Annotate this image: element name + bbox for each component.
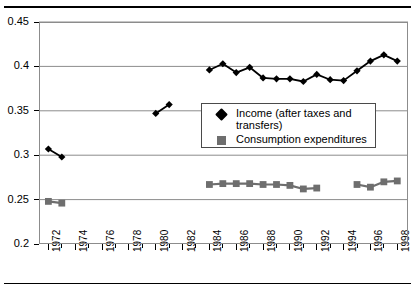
x-tick-mark bbox=[48, 244, 49, 250]
x-tick-mark bbox=[316, 244, 317, 250]
data-point-square bbox=[45, 198, 52, 205]
data-point-square bbox=[233, 180, 240, 187]
data-point-square bbox=[354, 181, 361, 188]
data-point-square bbox=[219, 180, 226, 187]
x-tick-mark bbox=[182, 244, 183, 250]
legend-item-consumption: Consumption expenditures bbox=[206, 133, 371, 147]
data-point-diamond bbox=[380, 51, 387, 58]
legend-key-consumption bbox=[206, 134, 236, 147]
data-point-diamond bbox=[394, 57, 401, 64]
series-line bbox=[357, 181, 397, 187]
data-point-square bbox=[273, 181, 280, 188]
legend-label-consumption: Consumption expenditures bbox=[236, 133, 367, 145]
data-point-diamond bbox=[286, 75, 293, 82]
data-point-diamond bbox=[327, 76, 334, 83]
data-point-diamond bbox=[300, 78, 307, 85]
data-point-square bbox=[58, 200, 65, 207]
data-point-square bbox=[394, 178, 401, 185]
data-point-square bbox=[206, 181, 213, 188]
x-tick-mark bbox=[128, 244, 129, 250]
data-point-square bbox=[287, 182, 294, 189]
data-point-square bbox=[260, 181, 267, 188]
data-point-square bbox=[300, 186, 307, 193]
data-point-square bbox=[313, 185, 320, 192]
data-point-square bbox=[246, 180, 253, 187]
data-point-square bbox=[380, 178, 387, 185]
data-point-diamond bbox=[206, 66, 213, 73]
x-tick-mark bbox=[289, 244, 290, 250]
x-tick-mark bbox=[343, 244, 344, 250]
x-tick-mark bbox=[102, 244, 103, 250]
legend-item-income: Income (after taxes and transfers) bbox=[206, 107, 371, 131]
legend-label-income: Income (after taxes and transfers) bbox=[236, 107, 368, 131]
diamond-marker-icon bbox=[215, 108, 228, 121]
data-point-diamond bbox=[273, 75, 280, 82]
x-tick-mark bbox=[155, 244, 156, 250]
figure: 0.20.250.30.350.40.45 197219741976197819… bbox=[0, 0, 415, 290]
data-point-diamond bbox=[313, 71, 320, 78]
x-tick-mark bbox=[263, 244, 264, 250]
chart-legend: Income (after taxes and transfers) Consu… bbox=[201, 103, 376, 148]
data-point-square bbox=[367, 184, 374, 191]
x-tick-mark bbox=[236, 244, 237, 250]
square-marker-icon bbox=[217, 136, 226, 145]
legend-key-income bbox=[206, 108, 236, 121]
x-tick-mark bbox=[209, 244, 210, 250]
x-tick-mark bbox=[75, 244, 76, 250]
x-tick-mark bbox=[370, 244, 371, 250]
x-tick-mark bbox=[397, 244, 398, 250]
